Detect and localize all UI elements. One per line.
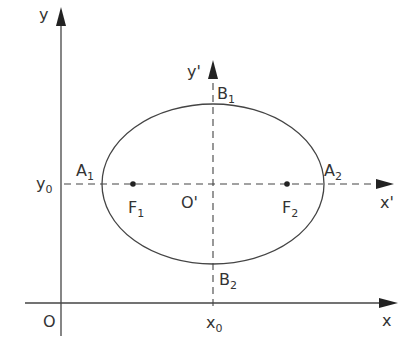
y-prime-axis-label: y' <box>187 62 201 81</box>
focus-f1-label: F1 <box>128 198 144 220</box>
vertex-a1-label: A1 <box>76 161 94 183</box>
vertex-b2-label: B2 <box>219 270 237 292</box>
y-prime-axis-arrow-icon <box>208 60 218 79</box>
vertex-a2-label: A2 <box>324 161 342 183</box>
x-axis <box>25 298 398 308</box>
shifted-origin-label: O' <box>181 193 198 212</box>
vertex-b1-label: B1 <box>217 84 235 106</box>
origin-label: O <box>43 312 56 331</box>
x0-label: x0 <box>206 313 222 335</box>
x-prime-axis-label: x' <box>380 193 394 212</box>
focus-f2-label: F2 <box>282 198 298 220</box>
y-axis-arrow-icon <box>56 7 66 26</box>
y0-label: y0 <box>36 174 52 196</box>
x-prime-axis <box>64 179 394 189</box>
y-axis <box>56 7 66 336</box>
ellipse-diagram: y x O y' x' O' x0 y0 A1 A2 B1 B2 F1 F2 <box>0 0 419 362</box>
x-prime-axis-arrow-icon <box>376 179 394 189</box>
x-axis-label: x <box>382 311 391 330</box>
x-axis-arrow-icon <box>379 298 398 308</box>
focus-f1-dot <box>130 181 136 187</box>
focus-f2-dot <box>284 181 290 187</box>
y-axis-label: y <box>39 5 48 24</box>
